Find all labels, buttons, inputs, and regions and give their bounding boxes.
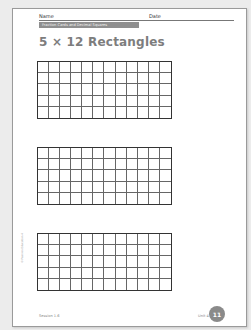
grid-cell xyxy=(149,62,160,73)
grid-cell xyxy=(49,159,60,170)
grid-cell xyxy=(49,245,60,256)
grid-cell xyxy=(60,182,71,193)
grid-cell xyxy=(138,107,149,118)
grid-cell xyxy=(38,268,49,279)
grid-cell xyxy=(116,170,127,181)
grid-cell xyxy=(149,279,160,290)
grid-cell xyxy=(138,182,149,193)
grid-cell xyxy=(138,170,149,181)
grid-cell xyxy=(116,279,127,290)
grid-cell xyxy=(38,73,49,84)
grid-cell xyxy=(49,234,60,245)
rectangle-grid-2 xyxy=(37,147,172,205)
rectangle-grid-3 xyxy=(37,233,172,291)
grid-cell xyxy=(38,107,49,118)
grid-cell xyxy=(49,193,60,204)
grid-cell xyxy=(71,193,82,204)
grid-cell xyxy=(149,234,160,245)
grid-cell xyxy=(71,245,82,256)
name-date-line: Name Date xyxy=(39,12,234,21)
grid-cell xyxy=(160,193,171,204)
grid-cell xyxy=(138,148,149,159)
grid-cell xyxy=(82,148,93,159)
grid-cell xyxy=(82,193,93,204)
grid-cell xyxy=(93,170,104,181)
grid-cell xyxy=(93,279,104,290)
grid-cell xyxy=(38,96,49,107)
grid-cell xyxy=(104,256,115,267)
grid-cell xyxy=(93,193,104,204)
grid-cell xyxy=(49,268,60,279)
grid-cell xyxy=(93,234,104,245)
grid-cell xyxy=(38,170,49,181)
grid-cell xyxy=(127,107,138,118)
grid-cell xyxy=(149,148,160,159)
copyright-notice: © Pearson Education 4 xyxy=(21,233,24,263)
grid-cell xyxy=(116,62,127,73)
grid-cell xyxy=(93,182,104,193)
grid-cell xyxy=(160,268,171,279)
grid-cell xyxy=(104,84,115,95)
grid-cell xyxy=(116,234,127,245)
grid-cell xyxy=(116,268,127,279)
grid-cell xyxy=(82,62,93,73)
grid-cell xyxy=(160,73,171,84)
grid-cell xyxy=(71,268,82,279)
grid-cell xyxy=(104,107,115,118)
grid-cell xyxy=(127,182,138,193)
grid-cell xyxy=(71,279,82,290)
grid-cell xyxy=(160,84,171,95)
grid-cell xyxy=(71,170,82,181)
grid-cell xyxy=(82,107,93,118)
grid-cell xyxy=(116,245,127,256)
grid-cell xyxy=(60,84,71,95)
grid-cell xyxy=(104,182,115,193)
session-label: Session 1.6 xyxy=(39,314,60,318)
grid-cell xyxy=(127,73,138,84)
grid-cell xyxy=(60,73,71,84)
grid-cell xyxy=(60,234,71,245)
grid-cell xyxy=(160,234,171,245)
grid-cell xyxy=(149,170,160,181)
grid-cell xyxy=(116,193,127,204)
grid-cell xyxy=(138,62,149,73)
grid-cell xyxy=(38,256,49,267)
grid-cell xyxy=(116,73,127,84)
grid-cell xyxy=(160,182,171,193)
unit-label: Unit 4 xyxy=(198,314,209,318)
grid-cell xyxy=(60,170,71,181)
grid-cell xyxy=(149,84,160,95)
grid-cell xyxy=(49,84,60,95)
grid-cell xyxy=(82,159,93,170)
grid-cell xyxy=(160,279,171,290)
grid-cell xyxy=(82,245,93,256)
grid-cell xyxy=(149,159,160,170)
grid-cell xyxy=(71,182,82,193)
grid-cell xyxy=(38,159,49,170)
grid-cell xyxy=(82,182,93,193)
grid-cell xyxy=(38,234,49,245)
grid-cell xyxy=(138,159,149,170)
grid-cell xyxy=(71,62,82,73)
grid-cell xyxy=(93,148,104,159)
grid-cell xyxy=(149,256,160,267)
grid-cell xyxy=(93,268,104,279)
grid-cell xyxy=(127,268,138,279)
grid-cell xyxy=(116,256,127,267)
grid-cell xyxy=(93,107,104,118)
grid-cell xyxy=(116,159,127,170)
grid-cell xyxy=(82,170,93,181)
grid-cell xyxy=(93,84,104,95)
grid-cell xyxy=(127,245,138,256)
page-number: 11 xyxy=(213,311,221,318)
grid-cell xyxy=(127,148,138,159)
grid-cell xyxy=(160,96,171,107)
grid-cell xyxy=(160,159,171,170)
grid-cell xyxy=(71,159,82,170)
grid-cell xyxy=(71,96,82,107)
grid-cell xyxy=(60,268,71,279)
grid-cell xyxy=(104,148,115,159)
grid-cell xyxy=(38,84,49,95)
grid-cell xyxy=(93,96,104,107)
grid-cell xyxy=(127,279,138,290)
